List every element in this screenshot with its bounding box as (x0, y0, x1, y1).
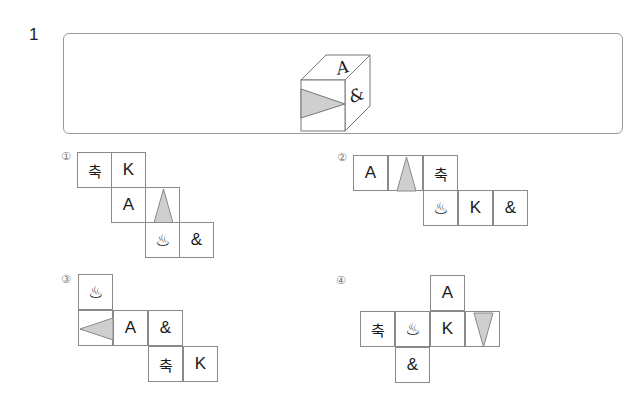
triangle-left-icon (79, 311, 114, 347)
option-4-label[interactable]: ④ (336, 274, 346, 287)
net-cell-triangle (78, 310, 113, 346)
question-number: 1 (29, 25, 38, 45)
triangle-up-icon (389, 156, 424, 192)
net-cell: A (353, 155, 388, 191)
net-cell: 축 (423, 155, 458, 191)
net-cell: A (113, 310, 148, 346)
option-1-label[interactable]: ① (61, 150, 71, 163)
cube-figure: A & (290, 45, 380, 137)
net-cell-triangle (388, 155, 423, 191)
net-cell: & (493, 190, 528, 226)
net-cell: 축 (148, 346, 183, 382)
triangle-up-icon (146, 188, 181, 224)
net-cell: & (179, 222, 214, 258)
hot-spring-icon: ♨ (145, 222, 180, 258)
net-cell: K (183, 346, 218, 382)
option-3-label[interactable]: ③ (61, 273, 71, 286)
net-cell: K (430, 311, 465, 347)
net-cell: A (430, 275, 465, 311)
hot-spring-icon: ♨ (395, 311, 430, 347)
option-2-label[interactable]: ② (337, 151, 347, 164)
net-cell: K (458, 190, 493, 226)
net-cell-triangle (465, 311, 500, 347)
triangle-down-icon (466, 312, 501, 348)
hot-spring-icon: ♨ (78, 274, 113, 310)
net-cell: 축 (360, 311, 395, 347)
net-cell: K (111, 152, 146, 188)
net-cell: & (395, 347, 430, 383)
net-cell: A (111, 187, 146, 223)
net-cell-triangle (145, 187, 180, 223)
net-cell: 축 (77, 152, 112, 188)
hot-spring-icon: ♨ (423, 190, 458, 226)
net-cell: & (148, 310, 183, 346)
